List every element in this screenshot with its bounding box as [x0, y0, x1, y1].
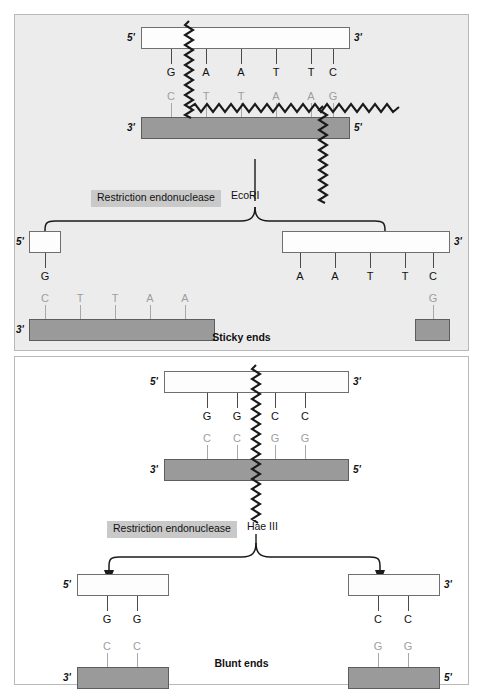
panel-caption-sticky-ends: Sticky ends — [15, 331, 468, 343]
left-fragment-bottom-strand — [77, 667, 169, 689]
intact-bottom-5prime-label: 5' — [354, 123, 362, 133]
base-letter: C — [130, 641, 144, 652]
bond-tick — [171, 49, 172, 64]
base-letter: C — [426, 271, 440, 282]
base-letter: T — [73, 293, 87, 304]
base-letter: A — [143, 293, 157, 304]
base-letter: A — [328, 271, 342, 282]
bond-tick — [150, 305, 151, 319]
base-letter: G — [200, 411, 214, 422]
bond-tick — [305, 393, 306, 408]
right-fragment-top-strand — [348, 574, 440, 596]
base-letter: T — [269, 67, 283, 78]
base-letter: T — [304, 67, 318, 78]
bond-tick — [241, 49, 242, 64]
intact-bottom-3prime-label: 3' — [150, 465, 158, 475]
bond-tick — [433, 305, 434, 319]
intact-bottom-5prime-label: 5' — [353, 465, 361, 475]
panel-caption-blunt-ends: Blunt ends — [15, 657, 468, 669]
bond-tick — [370, 253, 371, 268]
base-letter: A — [178, 293, 192, 304]
base-letter: T — [363, 271, 377, 282]
enzyme-name: Hae III — [247, 518, 278, 532]
base-letter: C — [38, 293, 52, 304]
right-fragment-top-strand — [282, 231, 450, 253]
base-letter: G — [38, 271, 52, 282]
base-letter: C — [164, 91, 178, 102]
bond-tick — [276, 49, 277, 64]
base-letter: A — [269, 91, 283, 102]
intact-bottom-strand — [164, 459, 349, 481]
right-fragment-3prime-label: 3' — [444, 580, 452, 590]
intact-top-strand — [141, 27, 350, 49]
enzyme-label-chip: Restriction endonuclease — [91, 190, 221, 207]
base-letter: G — [164, 67, 178, 78]
bond-tick — [171, 103, 172, 117]
bond-tick — [311, 103, 312, 117]
left-fragment-5prime-label: 5' — [63, 580, 71, 590]
base-letter: C — [100, 641, 114, 652]
left-fragment-top-strand — [29, 231, 61, 253]
bond-tick — [433, 253, 434, 268]
base-letter: G — [401, 641, 415, 652]
bond-tick — [335, 253, 336, 268]
bond-tick — [207, 393, 208, 408]
bond-tick — [408, 596, 409, 611]
left-fragment-3prime-label: 3' — [63, 673, 71, 683]
enzyme-label-chip: Restriction endonuclease — [107, 521, 237, 538]
intact-top-5prime-label: 5' — [127, 33, 135, 43]
panel-blunt-ends: 5' 3' G G C C C C G G 3' 5' — [14, 356, 469, 685]
intact-top-3prime-label: 3' — [354, 33, 362, 43]
intact-bottom-strand — [141, 117, 350, 139]
restriction-enzyme-figure: 5' 3' G A A T T C C T T A A G — [0, 0, 483, 699]
base-letter: A — [199, 67, 213, 78]
base-letter: G — [268, 433, 282, 444]
bond-tick — [237, 393, 238, 408]
base-letter: T — [234, 91, 248, 102]
base-letter: G — [426, 293, 440, 304]
left-fragment-top-strand — [77, 574, 169, 596]
base-letter: C — [200, 433, 214, 444]
base-letter: C — [230, 433, 244, 444]
enzyme-row-haeiii: Restriction endonucleaseHae III — [107, 518, 278, 538]
base-letter: G — [100, 614, 114, 625]
bond-tick — [206, 49, 207, 64]
bond-tick — [185, 305, 186, 319]
bond-tick — [333, 49, 334, 64]
base-letter: T — [108, 293, 122, 304]
bond-tick — [115, 305, 116, 319]
base-letter: G — [326, 91, 340, 102]
bond-tick — [305, 445, 306, 459]
bond-tick — [237, 445, 238, 459]
right-fragment-bottom-strand — [348, 667, 440, 689]
bond-tick — [378, 596, 379, 611]
base-letter: C — [371, 614, 385, 625]
left-fragment-5prime-label: 5' — [16, 237, 24, 247]
base-letter: A — [234, 67, 248, 78]
bond-tick — [241, 103, 242, 117]
bond-tick — [45, 253, 46, 268]
intact-top-strand — [164, 371, 349, 393]
intact-bottom-3prime-label: 3' — [127, 123, 135, 133]
right-fragment-3prime-label: 3' — [454, 237, 462, 247]
base-letter: A — [293, 271, 307, 282]
bond-tick — [311, 49, 312, 64]
right-fragment-5prime-label: 5' — [444, 673, 452, 683]
base-letter: C — [326, 67, 340, 78]
bond-tick — [45, 305, 46, 319]
bond-tick — [206, 103, 207, 117]
bond-tick — [275, 445, 276, 459]
base-letter: C — [298, 411, 312, 422]
base-letter: G — [298, 433, 312, 444]
bond-tick — [80, 305, 81, 319]
base-letter: T — [398, 271, 412, 282]
bond-tick — [275, 393, 276, 408]
bond-tick — [276, 103, 277, 117]
bond-tick — [300, 253, 301, 268]
base-letter: G — [130, 614, 144, 625]
bond-tick — [405, 253, 406, 268]
bond-tick — [333, 103, 334, 117]
bond-tick — [107, 596, 108, 611]
base-letter: G — [371, 641, 385, 652]
enzyme-row-ecori: Restriction endonucleaseEcoRI — [91, 187, 260, 207]
